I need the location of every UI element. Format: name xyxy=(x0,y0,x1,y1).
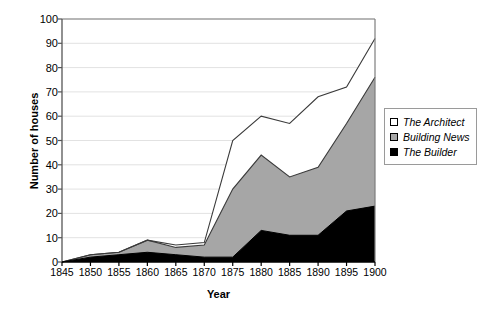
x-tick-label-1860: 1860 xyxy=(136,266,159,278)
legend-item[interactable]: Building News xyxy=(390,129,470,144)
y-tick-label-80: 80 xyxy=(28,62,58,74)
x-axis-title: Year xyxy=(62,288,375,300)
legend-item-label: The Builder xyxy=(403,146,457,158)
y-tick-label-90: 90 xyxy=(28,37,58,49)
y-tick-label-50: 50 xyxy=(28,135,58,147)
y-axis-title-wrapper: Number of houses xyxy=(10,19,24,262)
y-tick-label-20: 20 xyxy=(28,207,58,219)
y-tick-label-100: 100 xyxy=(28,13,58,25)
x-tick-label-1875: 1875 xyxy=(221,266,244,278)
x-tick-label-1865: 1865 xyxy=(164,266,187,278)
legend-item[interactable]: The Builder xyxy=(390,144,470,159)
y-tick-label-40: 40 xyxy=(28,159,58,171)
x-tick-label-1870: 1870 xyxy=(193,266,216,278)
x-tick-label-1885: 1885 xyxy=(278,266,301,278)
x-tick-label-1845: 1845 xyxy=(50,266,73,278)
x-tick-label-1880: 1880 xyxy=(249,266,272,278)
legend-swatch-icon xyxy=(390,148,398,156)
y-tick-label-60: 60 xyxy=(28,110,58,122)
x-tick-label-1900: 1900 xyxy=(363,266,386,278)
y-tick-label-70: 70 xyxy=(28,86,58,98)
legend-item-label: Building News xyxy=(403,131,470,143)
y-tick-label-10: 10 xyxy=(28,232,58,244)
legend-swatch-icon xyxy=(390,118,398,126)
y-axis-tick-labels: 0102030405060708090100 xyxy=(26,0,58,311)
x-tick-label-1850: 1850 xyxy=(79,266,102,278)
x-tick-label-1895: 1895 xyxy=(335,266,358,278)
y-tick-label-30: 30 xyxy=(28,183,58,195)
legend-item-label: The Architect xyxy=(403,116,464,128)
x-tick-label-1855: 1855 xyxy=(107,266,130,278)
legend-swatch-icon xyxy=(390,133,398,141)
legend-item[interactable]: The Architect xyxy=(390,114,470,129)
x-tick-label-1890: 1890 xyxy=(306,266,329,278)
chart-container: Number of houses 0102030405060708090100 … xyxy=(0,0,479,311)
legend: The ArchitectBuilding NewsThe Builder xyxy=(384,108,477,165)
